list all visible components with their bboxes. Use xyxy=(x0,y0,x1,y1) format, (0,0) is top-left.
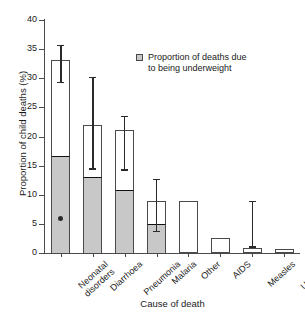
error-bar-cap-high xyxy=(153,179,160,180)
y-axis-line xyxy=(44,19,45,254)
y-axis-tick-label: 40 xyxy=(12,15,37,24)
error-bar-line xyxy=(156,180,157,232)
error-bar-cap-low xyxy=(121,169,128,170)
error-bar-line xyxy=(124,117,125,171)
error-bar-cap-high xyxy=(121,116,128,117)
bar-group xyxy=(51,20,70,253)
y-axis-tick xyxy=(39,78,44,79)
error-bar-cap-low xyxy=(249,246,256,247)
x-axis-title: Cause of death xyxy=(45,298,300,309)
error-bar-cap-high xyxy=(249,201,256,202)
bar-group xyxy=(115,20,134,253)
y-axis-tick xyxy=(39,166,44,167)
x-axis-tick xyxy=(188,253,189,257)
error-bar-line xyxy=(92,78,93,169)
x-axis-tick-label: Other xyxy=(199,259,222,281)
bar-total xyxy=(179,201,198,253)
x-axis-tick-label: Unknown xyxy=(299,259,305,292)
error-bar-cap-high xyxy=(57,45,64,46)
x-axis-tick xyxy=(220,253,221,257)
x-axis-tick xyxy=(125,253,126,257)
bar-underweight-portion xyxy=(115,190,134,253)
error-bar-line xyxy=(60,46,61,83)
x-axis-tick-label: Measles xyxy=(266,259,298,289)
legend-square-gray-icon xyxy=(136,54,143,61)
y-axis-tick-label: 5 xyxy=(12,219,37,228)
x-axis-tick xyxy=(93,253,94,257)
y-axis-tick xyxy=(39,107,44,108)
chart-legend: Proportion of deaths due to being underw… xyxy=(136,52,247,74)
chart-figure: 0510152025303540 Proportion of child dea… xyxy=(0,0,305,316)
bar-group xyxy=(275,20,294,253)
y-axis-tick xyxy=(39,195,44,196)
y-axis-tick xyxy=(39,137,44,138)
error-bar-cap-low xyxy=(153,231,160,232)
x-axis-tick xyxy=(157,253,158,257)
y-axis-tick xyxy=(39,253,44,254)
bar-group xyxy=(83,20,102,253)
x-axis-tick-label: Neonataldisorders xyxy=(75,259,116,299)
error-bar-cap-low xyxy=(89,168,96,169)
bar-underweight-portion xyxy=(51,156,70,253)
error-bar-cap-low xyxy=(57,82,64,83)
y-axis-tick xyxy=(39,49,44,50)
x-axis-line xyxy=(44,253,300,254)
bar-underweight-portion xyxy=(83,177,102,253)
error-bar-cap-high xyxy=(89,77,96,78)
bar-total xyxy=(211,238,230,253)
y-axis-tick-label: 0 xyxy=(12,248,37,257)
y-axis-tick xyxy=(39,20,44,21)
x-axis-tick xyxy=(284,253,285,257)
x-axis-tick xyxy=(252,253,253,257)
error-bar-line xyxy=(252,202,253,247)
x-axis-tick xyxy=(61,253,62,257)
x-axis-tick-label: AIDS xyxy=(231,259,253,280)
y-axis-tick xyxy=(39,224,44,225)
legend-label: Proportion of deaths due to being underw… xyxy=(148,52,247,74)
